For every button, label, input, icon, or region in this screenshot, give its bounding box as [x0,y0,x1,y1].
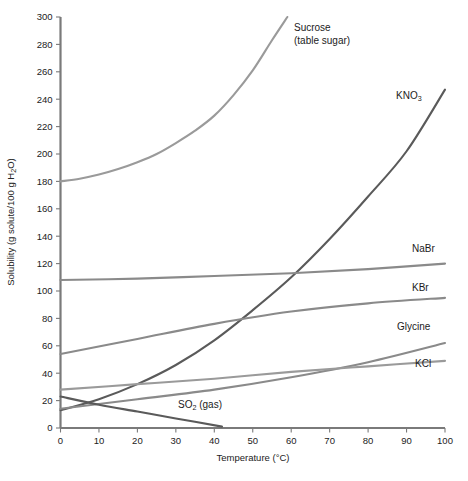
x-tick-label: 100 [437,435,453,446]
y-tick-label: 220 [37,121,53,132]
y-tick-label: 260 [37,66,53,77]
x-tick-label: 50 [247,435,258,446]
y-tick-label: 280 [37,39,53,50]
y-tick-label: 240 [37,94,53,105]
y-tick-label: 300 [37,11,53,22]
y-tick-label: 180 [37,176,53,187]
y-tick-label: 200 [37,148,53,159]
y-tick-label: 120 [37,258,53,269]
y-tick-label: 160 [37,203,53,214]
series-label-sucrose: Sucrose [294,22,331,33]
chart-background [0,0,468,481]
series-label-sucrose-sub: (table sugar) [294,35,350,46]
x-tick-label: 90 [401,435,412,446]
series-label-nabr: NaBr [412,243,435,254]
x-tick-label: 80 [363,435,374,446]
x-axis-title: Temperature (°C) [217,452,290,463]
x-tick-label: 10 [94,435,105,446]
x-tick-label: 60 [286,435,297,446]
x-tick-label: 20 [132,435,143,446]
y-tick-label: 80 [42,313,53,324]
series-label-kbr: KBr [412,282,429,293]
y-tick-label: 100 [37,285,53,296]
series-label-glycine: Glycine [397,321,431,332]
y-tick-label: 60 [42,340,53,351]
y-tick-label: 140 [37,231,53,242]
solubility-chart-figure: 0204060801001201401601802002202402602803… [0,0,468,481]
series-label-kcl: KCl [415,358,431,369]
x-tick-label: 40 [209,435,220,446]
y-tick-label: 20 [42,395,53,406]
x-tick-label: 30 [171,435,182,446]
x-tick-label: 0 [58,435,63,446]
y-tick-label: 40 [42,368,53,379]
y-tick-label: 0 [47,422,52,433]
chart-canvas: 0204060801001201401601802002202402602803… [0,0,468,481]
x-tick-label: 70 [324,435,335,446]
